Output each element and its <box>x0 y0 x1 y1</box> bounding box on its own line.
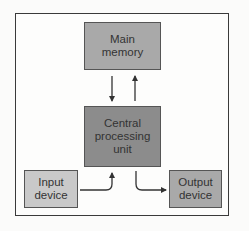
input-to-cpu-arrow <box>80 173 112 190</box>
arrows-layer <box>0 0 249 231</box>
cpu-to-output-arrow <box>136 171 166 190</box>
